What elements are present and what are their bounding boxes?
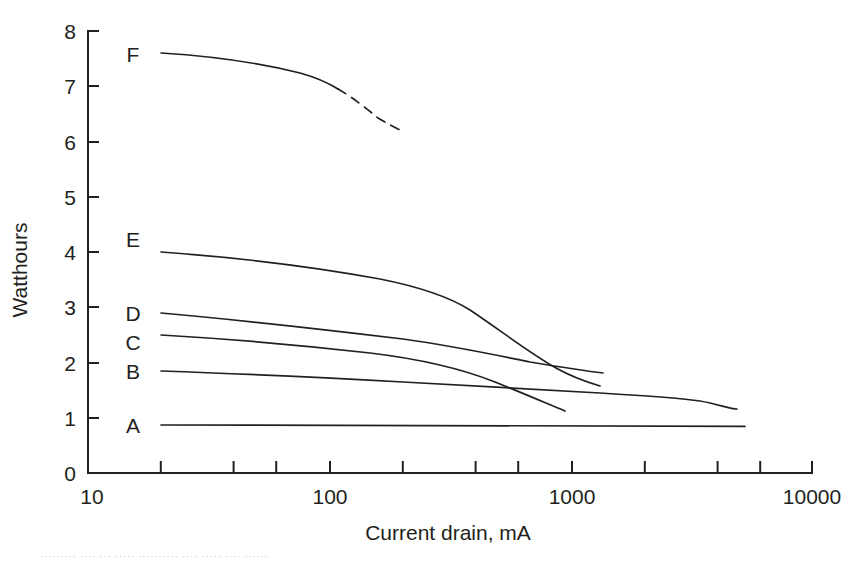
curve-f-dashed — [338, 89, 402, 131]
x-axis-title: Current drain, mA — [365, 521, 531, 544]
series-label-f: F — [127, 43, 140, 66]
series-label-c: C — [125, 331, 140, 354]
y-tick-label-3: 3 — [64, 296, 76, 319]
x-tick-label-100: 100 — [312, 485, 347, 508]
caption-text: ········· ···· ··· ····· ·········· ····… — [0, 548, 865, 564]
y-tick-label-1: 1 — [64, 407, 76, 430]
y-tick-label-7: 7 — [64, 75, 76, 98]
y-tick-label-4: 4 — [64, 241, 76, 264]
curve-a — [161, 425, 745, 426]
x-tick-label-10: 10 — [80, 485, 103, 508]
axis-group — [88, 31, 812, 473]
series-label-e: E — [126, 228, 140, 251]
curve-d — [161, 313, 603, 373]
chart-canvas: 8 7 6 5 4 3 2 1 0 10 100 — [0, 0, 865, 564]
y-tick-label-0: 0 — [64, 462, 76, 485]
data-curves-group — [161, 53, 745, 426]
series-label-group: A B C D E F — [125, 43, 140, 437]
x-tick-label-1000: 1000 — [549, 485, 596, 508]
y-tick-labels: 8 7 6 5 4 3 2 1 0 — [64, 20, 76, 485]
y-tick-group — [88, 31, 99, 418]
series-label-b: B — [126, 360, 140, 383]
x-tick-label-10000: 10000 — [783, 485, 841, 508]
y-tick-label-5: 5 — [64, 186, 76, 209]
figure-root: 8 7 6 5 4 3 2 1 0 10 100 — [0, 0, 865, 564]
y-tick-label-2: 2 — [64, 352, 76, 375]
series-label-a: A — [126, 414, 140, 437]
caption-strip: ········· ···· ··· ····· ·········· ····… — [0, 548, 865, 564]
series-label-d: D — [125, 302, 140, 325]
curve-b — [161, 371, 737, 409]
curve-f-solid — [161, 53, 338, 89]
y-tick-label-8: 8 — [64, 20, 76, 43]
x-tick-group — [161, 461, 812, 473]
y-tick-label-6: 6 — [64, 131, 76, 154]
y-axis-title: Watthours — [8, 223, 31, 318]
x-tick-labels: 10 100 1000 10000 — [80, 485, 841, 508]
